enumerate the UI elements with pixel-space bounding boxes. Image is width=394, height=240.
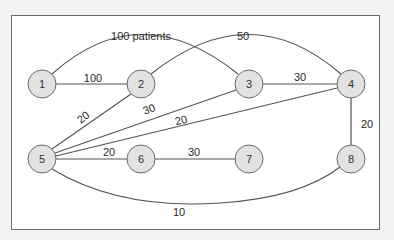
edge-label-5-8: 10: [173, 206, 185, 218]
node-4: 4: [337, 70, 365, 98]
node-6: 6: [127, 145, 155, 173]
svg-text:6: 6: [138, 153, 144, 165]
network-graph: 100 patients 100 50 30 20 30 20 20 20 30…: [0, 0, 394, 240]
node-8: 8: [337, 145, 365, 173]
edge-label-3-4: 30: [294, 71, 306, 83]
node-2: 2: [127, 70, 155, 98]
edge-label-1-2: 100: [84, 72, 102, 84]
node-7: 7: [235, 145, 263, 173]
edge-5-8: [52, 167, 340, 204]
svg-text:1: 1: [39, 78, 45, 90]
edge-label-1-3: 100 patients: [111, 30, 171, 42]
svg-text:7: 7: [246, 153, 252, 165]
edge-label-2-4: 50: [237, 30, 249, 42]
svg-text:5: 5: [39, 153, 45, 165]
svg-text:8: 8: [348, 153, 354, 165]
node-1: 1: [28, 70, 56, 98]
edge-label-6-7: 30: [188, 146, 200, 158]
svg-text:2: 2: [138, 78, 144, 90]
node-3: 3: [235, 70, 263, 98]
svg-text:3: 3: [246, 78, 252, 90]
edge-label-5-3: 30: [141, 101, 156, 116]
edge-label-4-8: 20: [361, 118, 373, 130]
edge-label-5-6: 20: [103, 146, 115, 158]
node-5: 5: [28, 145, 56, 173]
svg-text:4: 4: [348, 78, 354, 90]
